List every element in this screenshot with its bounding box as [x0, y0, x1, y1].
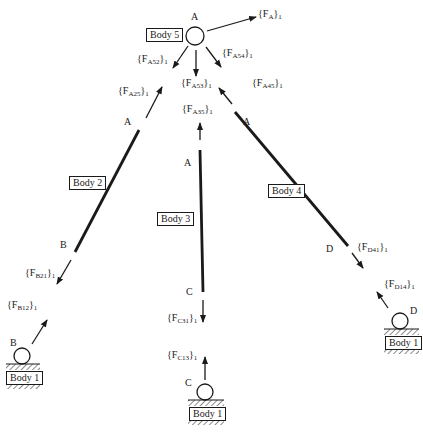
point-d-ground: D	[410, 306, 417, 316]
free-body-diagram	[0, 0, 423, 438]
body3-label: Body 3	[157, 212, 194, 226]
force-FC31-label: {FC31}1	[167, 313, 197, 326]
body1-d-label: Body 1	[385, 336, 422, 350]
body4-link-bar	[235, 112, 348, 246]
point-d-body4: D	[326, 244, 333, 254]
point-a-top: A	[191, 12, 198, 22]
force-FA-arrow	[207, 17, 256, 31]
force-FD14-label: {FD14}1	[384, 279, 415, 292]
force-FA-label: {FA}1	[258, 9, 282, 22]
force-FB12-label: {FB12}1	[7, 300, 37, 313]
body2-link-bar	[75, 130, 139, 252]
point-a-body4: A	[243, 117, 250, 127]
force-FA52-arrow	[173, 46, 188, 68]
body5-label: Body 5	[146, 28, 183, 42]
force-FA54-label: {FA54}1	[222, 48, 253, 61]
body1-b-label: Body 1	[6, 371, 43, 385]
ground-d-roller	[392, 313, 408, 329]
force-FA45-label: {FA45}1	[252, 78, 283, 91]
point-b-ground: B	[10, 338, 17, 348]
point-a-body2: A	[124, 117, 131, 127]
force-FA35-label: {FA35}1	[182, 104, 213, 117]
ground-c-hatch-top	[188, 400, 224, 406]
point-c-ground: C	[185, 378, 192, 388]
force-FD41-label: {FD41}1	[357, 242, 388, 255]
body5-pin-circle	[186, 27, 204, 45]
force-FA25-label: {FA25}1	[118, 86, 149, 99]
point-b-body2: B	[60, 240, 67, 250]
force-FA45-arrow	[219, 88, 232, 104]
point-a-body3: A	[184, 158, 191, 168]
force-FB21-label: {FB21}1	[25, 268, 55, 281]
point-c-body3: C	[186, 287, 193, 297]
ground-d-hatch-top	[384, 329, 419, 335]
body1-c-label: Body 1	[189, 407, 226, 421]
ground-b-roller	[14, 348, 30, 364]
force-FA53-label: {FA53}1	[181, 78, 212, 91]
body3-link-bar	[200, 150, 203, 292]
force-FA54-arrow	[206, 47, 221, 67]
force-FD14-arrow	[377, 292, 388, 308]
force-FC13-label: {FC13}1	[167, 350, 197, 363]
ground-c-roller	[197, 384, 213, 400]
body4-label: Body 4	[268, 184, 305, 198]
force-FB21-arrow	[57, 260, 71, 284]
force-FA52-label: {FA52}1	[137, 54, 168, 67]
body2-label: Body 2	[69, 176, 106, 190]
force-FB12-arrow	[32, 320, 47, 344]
ground-b-hatch-top	[6, 364, 40, 370]
force-FD41-arrow	[352, 253, 363, 268]
